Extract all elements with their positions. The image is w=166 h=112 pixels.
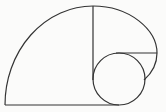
outer-arc [5,6,93,105]
right-arc [93,6,157,80]
spiral-diagram [0,0,166,112]
inner-circle [93,53,145,105]
